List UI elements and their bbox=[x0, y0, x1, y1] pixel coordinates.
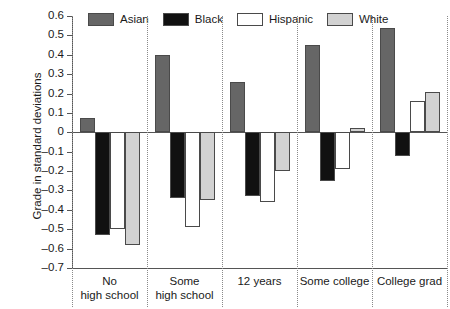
y-tick-label: 0.5 bbox=[48, 27, 64, 41]
y-tick-label: –0.3 bbox=[42, 182, 64, 196]
bar-black-0 bbox=[95, 132, 110, 235]
bar-group: College grad bbox=[372, 16, 447, 268]
x-axis-label-line: 12 years bbox=[222, 274, 297, 288]
bar-group: Nohigh school bbox=[72, 16, 147, 268]
x-axis-label-line: College grad bbox=[372, 274, 447, 288]
x-axis-label: 12 years bbox=[222, 274, 297, 288]
bar-group: 12 years bbox=[222, 16, 297, 268]
bar-asian-4 bbox=[380, 28, 395, 133]
y-tick-label: 0.3 bbox=[48, 66, 64, 80]
bar-hispanic-1 bbox=[185, 132, 200, 227]
x-axis-label-line: high school bbox=[147, 288, 222, 302]
plot-area: 0.60.50.40.30.20.10–0.1–0.2–0.3–0.4–0.5–… bbox=[72, 16, 447, 268]
y-tick-label: 0.2 bbox=[48, 86, 64, 100]
x-axis-label: Nohigh school bbox=[72, 274, 147, 302]
bar-asian-1 bbox=[155, 55, 170, 133]
bar-white-4 bbox=[425, 92, 440, 133]
bar-black-2 bbox=[245, 132, 260, 196]
bar-black-4 bbox=[395, 132, 410, 155]
x-axis-label: College grad bbox=[372, 274, 447, 288]
y-tick-label: 0.1 bbox=[48, 105, 64, 119]
bar-hispanic-2 bbox=[260, 132, 275, 202]
y-tick-label: –0.1 bbox=[42, 144, 64, 158]
bar-asian-3 bbox=[305, 45, 320, 132]
y-tick-label: –0.5 bbox=[42, 221, 64, 235]
x-axis-line bbox=[72, 268, 447, 269]
bar-black-3 bbox=[320, 132, 335, 180]
x-axis-label-line: No bbox=[72, 274, 147, 288]
x-axis-label-line: high school bbox=[72, 288, 147, 302]
bar-white-1 bbox=[200, 132, 215, 200]
bar-group: Some college bbox=[297, 16, 372, 268]
y-tick-label: 0 bbox=[58, 124, 64, 138]
group-divider bbox=[447, 16, 448, 307]
bar-hispanic-4 bbox=[410, 101, 425, 132]
y-tick-label: –0.2 bbox=[42, 163, 64, 177]
y-tick-label: –0.6 bbox=[42, 241, 64, 255]
bar-hispanic-3 bbox=[335, 132, 350, 169]
bar-black-1 bbox=[170, 132, 185, 198]
bar-white-0 bbox=[125, 132, 140, 244]
bar-hispanic-0 bbox=[110, 132, 125, 229]
bar-asian-2 bbox=[230, 82, 245, 132]
bar-white-3 bbox=[350, 128, 365, 132]
bar-asian-0 bbox=[80, 118, 95, 133]
bar-group: Somehigh school bbox=[147, 16, 222, 268]
bar-white-2 bbox=[275, 132, 290, 171]
y-tick-label: 0.4 bbox=[48, 47, 64, 61]
bar-chart: AsianBlackHispanicWhite Grade in standar… bbox=[0, 0, 450, 309]
y-tick-label: 0.6 bbox=[48, 8, 64, 22]
x-axis-label: Somehigh school bbox=[147, 274, 222, 302]
x-axis-label: Some college bbox=[297, 274, 372, 288]
group-divider bbox=[72, 16, 73, 307]
x-axis-label-line: Some college bbox=[297, 274, 372, 288]
y-tick-label: –0.4 bbox=[42, 202, 64, 216]
x-axis-label-line: Some bbox=[147, 274, 222, 288]
y-tick-label: –0.7 bbox=[42, 260, 64, 274]
